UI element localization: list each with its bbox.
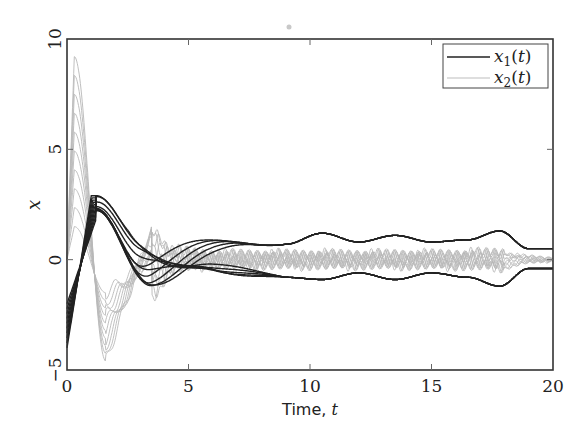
x-axis-title-var: t — [331, 400, 338, 419]
legend-label-x1: x1(t) — [494, 46, 531, 69]
legend-label-x2: x2(t) — [494, 67, 531, 90]
axes-frame — [67, 39, 553, 370]
y-tick-labels: −5 0 5 10 — [45, 28, 65, 382]
x-tick-10: 10 — [299, 376, 321, 396]
x-tick-20: 20 — [542, 376, 564, 396]
x-tick-labels: 0 5 10 15 20 — [62, 376, 564, 396]
y-axis-title: x — [23, 200, 44, 210]
legend: x1(t) x2(t) — [443, 44, 548, 90]
x2-trajectory — [67, 113, 553, 345]
legend-arg-x1: (t) — [511, 46, 531, 66]
y-tick-10: 10 — [45, 28, 65, 50]
legend-arg-x2: (t) — [511, 67, 531, 87]
x2-trajectory — [67, 132, 553, 333]
x2-trajectory — [67, 94, 553, 350]
plot-area — [67, 57, 553, 361]
axis-ticks — [67, 39, 553, 370]
y-tick-5: 5 — [45, 144, 65, 155]
x1-trajectory — [67, 196, 553, 348]
chart: 0 5 10 15 20 −5 0 5 10 Time, t x x1(t) x… — [0, 0, 587, 438]
x2-trajectory — [67, 76, 553, 354]
y-tick-minus5: −5 — [45, 357, 65, 382]
x-axis-title-text: Time, — [281, 400, 331, 419]
stray-dot — [287, 25, 292, 30]
series-x2 — [67, 57, 553, 361]
x2-trajectory — [67, 57, 553, 361]
y-tick-0: 0 — [45, 255, 65, 266]
x2-trajectory — [67, 170, 553, 316]
x-tick-15: 15 — [421, 376, 443, 396]
x-axis-title: Time, t — [281, 400, 338, 419]
x-tick-5: 5 — [183, 376, 194, 396]
series-x1 — [67, 196, 553, 348]
